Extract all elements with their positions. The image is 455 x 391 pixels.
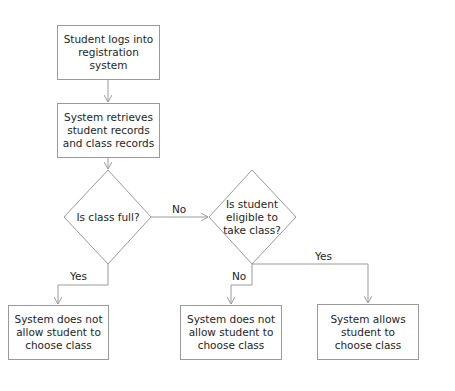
node-eligible-label: Is student eligible to take class? bbox=[222, 196, 282, 238]
node-login: Student logs into registration system bbox=[57, 25, 160, 80]
flowchart: Student logs into registration system Sy… bbox=[0, 0, 455, 391]
node-retrieve-label: System retrieves student records and cla… bbox=[62, 111, 155, 150]
node-deny-ineligible: System does not allow student to choose … bbox=[180, 305, 282, 360]
node-class-full-label: Is class full? bbox=[68, 200, 148, 234]
arrow-eligible-yes bbox=[252, 264, 368, 303]
node-allow: System allows student to choose class bbox=[317, 304, 419, 360]
edge-label-full-no: No bbox=[172, 203, 186, 216]
edge-label-full-yes: Yes bbox=[70, 270, 87, 283]
node-deny-full: System does not allow student to choose … bbox=[8, 305, 109, 360]
node-allow-label: System allows student to choose class bbox=[322, 313, 414, 352]
node-login-label: Student logs into registration system bbox=[62, 33, 155, 72]
node-deny-ineligible-label: System does not allow student to choose … bbox=[185, 313, 277, 352]
node-deny-full-label: System does not allow student to choose … bbox=[13, 313, 104, 352]
edge-label-eligible-no: No bbox=[232, 270, 246, 283]
edge-label-eligible-yes: Yes bbox=[315, 250, 332, 263]
node-retrieve: System retrieves student records and cla… bbox=[57, 103, 160, 158]
